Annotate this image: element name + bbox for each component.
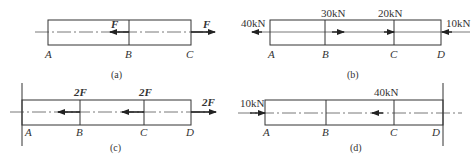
force-label: 40kN <box>374 86 399 98</box>
panel-b: 40kN 30kN 20kN 10kN A B C D (b) <box>241 7 471 81</box>
force-label: F <box>202 18 211 30</box>
force-label: 2F <box>138 86 153 98</box>
point-label: D <box>431 126 440 138</box>
bar-body <box>265 100 443 125</box>
point-label: D <box>185 126 194 138</box>
point-label: C <box>390 48 398 60</box>
force-label: F <box>110 18 119 30</box>
panel-caption: (a) <box>111 69 122 81</box>
panel-c: 2F 2F 2F A B C D (c) <box>10 83 216 154</box>
force-label: 20kN <box>378 7 403 19</box>
force-label: 40kN <box>241 17 266 29</box>
point-label: A <box>24 126 32 138</box>
bar-body <box>270 20 441 45</box>
panel-caption: (d) <box>350 142 362 154</box>
point-label: C <box>390 126 398 138</box>
panel-d: 10kN 40kN A B C D (d) <box>238 83 462 154</box>
point-label: A <box>267 48 275 60</box>
point-label: C <box>140 126 148 138</box>
point-label: A <box>44 48 52 60</box>
panel-a: F F A B C (a) <box>35 18 215 81</box>
point-label: B <box>76 126 83 138</box>
point-label: A <box>262 126 270 138</box>
point-label: D <box>436 48 445 60</box>
panel-caption: (c) <box>110 142 121 154</box>
panel-caption: (b) <box>347 69 359 81</box>
force-label: 2F <box>73 86 88 98</box>
force-label: 2F <box>201 96 216 108</box>
point-label: C <box>186 48 194 60</box>
point-label: B <box>322 48 329 60</box>
force-label: 10kN <box>240 97 265 109</box>
bar-body <box>22 100 191 125</box>
force-label: 30kN <box>321 7 346 19</box>
point-label: B <box>322 126 329 138</box>
point-label: B <box>125 48 132 60</box>
force-label: 10kN <box>446 17 471 29</box>
axial-bar-diagrams: F F A B C (a) 40kN 30kN 20kN 10kN A B C … <box>0 0 472 158</box>
